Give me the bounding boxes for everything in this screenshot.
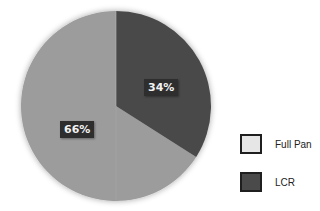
legend-swatch-full-pan xyxy=(240,134,262,154)
pie-chart xyxy=(0,0,320,211)
data-label-lcr: 34% xyxy=(144,79,178,96)
legend-swatch-lcr xyxy=(240,172,262,192)
legend-label: Full Pan xyxy=(275,139,312,150)
legend-label: LCR xyxy=(275,177,295,188)
data-label-full-pan: 66% xyxy=(60,121,94,138)
